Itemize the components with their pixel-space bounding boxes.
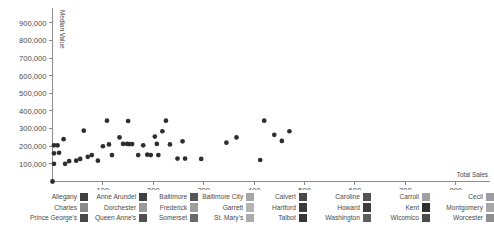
- legend-column: CecilMontgomeryWorcester: [434, 192, 494, 223]
- legend-item[interactable]: Charles: [28, 203, 88, 213]
- legend-color-swatch: [246, 214, 254, 223]
- data-point: [89, 153, 94, 158]
- data-point: [57, 150, 62, 155]
- legend-item[interactable]: Washington: [311, 213, 371, 223]
- data-point: [101, 144, 106, 149]
- legend-color-swatch: [422, 193, 430, 202]
- plot-area: 100,000200,000300,000400,000500,000600,0…: [0, 0, 494, 190]
- data-point: [126, 119, 131, 124]
- data-point: [52, 151, 57, 156]
- data-point: [81, 128, 86, 133]
- legend-item[interactable]: St. Mary's: [202, 213, 254, 223]
- legend-item[interactable]: Anne Arundel: [92, 192, 147, 202]
- y-tick-label: 200,000: [19, 142, 46, 151]
- data-point: [258, 158, 263, 163]
- x-tick-label: 600: [349, 186, 362, 190]
- x-tick-label: 800: [449, 186, 462, 190]
- legend-item-label: Worcester: [453, 213, 483, 223]
- legend-item-label: Charles: [54, 203, 77, 213]
- legend-item-label: Cecil: [468, 192, 483, 202]
- data-point: [61, 137, 66, 142]
- legend-item-label: Allegany: [52, 192, 77, 202]
- legend-item[interactable]: Wicomico: [375, 213, 430, 223]
- legend-color-swatch: [190, 203, 198, 212]
- legend-item-label: Baltimore: [159, 192, 187, 202]
- scatter-chart: 100,000200,000300,000400,000500,000600,0…: [0, 0, 494, 238]
- x-tick-label: 700: [399, 186, 412, 190]
- x-tick-label: 300: [197, 186, 210, 190]
- legend-item-label: Hartford: [272, 203, 296, 213]
- x-tick-label: 500: [298, 186, 311, 190]
- legend-item[interactable]: Howard: [311, 203, 371, 213]
- legend-color-swatch: [299, 203, 307, 212]
- y-axis-title: Median Value: [59, 10, 66, 49]
- legend-item-label: Caroline: [335, 192, 360, 202]
- data-point: [152, 134, 157, 139]
- legend-item-label: Kent: [405, 203, 419, 213]
- legend-color-swatch: [246, 203, 254, 212]
- data-point: [224, 140, 229, 145]
- data-point: [136, 153, 141, 158]
- data-point: [107, 142, 112, 147]
- legend-column: CarolineHowardWashington: [311, 192, 371, 223]
- legend-item[interactable]: Worcester: [434, 213, 494, 223]
- legend-item-label: Montgomery: [446, 203, 483, 213]
- y-tick-label: 600,000: [19, 72, 46, 81]
- legend-item-label: Baltimore City: [202, 192, 243, 202]
- x-tick-label: 200: [147, 186, 160, 190]
- data-point: [168, 142, 173, 147]
- legend-item[interactable]: Calvert: [258, 192, 307, 202]
- legend-color-swatch: [363, 193, 371, 202]
- legend-item[interactable]: Talbot: [258, 213, 307, 223]
- legend-color-swatch: [486, 203, 494, 212]
- data-point: [141, 143, 146, 148]
- legend-color-swatch: [139, 193, 147, 202]
- legend-item[interactable]: Prince George's: [28, 213, 88, 223]
- legend-color-swatch: [363, 203, 371, 212]
- data-point: [180, 139, 185, 144]
- legend-item[interactable]: Caroline: [311, 192, 371, 202]
- legend-item[interactable]: Cecil: [434, 192, 494, 202]
- data-point: [78, 157, 83, 162]
- x-tick-label: 100: [97, 186, 110, 190]
- x-tick-label: 400: [248, 186, 261, 190]
- data-point: [148, 153, 153, 158]
- data-point: [156, 153, 161, 158]
- legend-item[interactable]: Somerset: [151, 213, 198, 223]
- legend-item[interactable]: Frederick: [151, 203, 198, 213]
- legend-color-swatch: [139, 203, 147, 212]
- legend-item[interactable]: Queen Anne's: [92, 213, 147, 223]
- legend-item-label: Somerset: [159, 213, 187, 223]
- x-axis-title: Total Sales: [457, 171, 488, 178]
- legend-item[interactable]: Montgomery: [434, 203, 494, 213]
- data-point: [164, 118, 169, 123]
- legend-item[interactable]: Carroll: [375, 192, 430, 202]
- origin-marker: [50, 179, 55, 184]
- data-point: [117, 135, 122, 140]
- legend-item-label: Talbot: [278, 213, 296, 223]
- legend-item-label: Howard: [337, 203, 360, 213]
- data-point: [110, 153, 115, 158]
- data-point: [199, 157, 204, 162]
- legend-column: Anne ArundelDorchesterQueen Anne's: [92, 192, 147, 223]
- legend-color-swatch: [80, 214, 88, 223]
- legend-color-swatch: [422, 203, 430, 212]
- legend-item[interactable]: Garrett: [202, 203, 254, 213]
- legend-color-swatch: [139, 214, 147, 223]
- legend-item[interactable]: Dorchester: [92, 203, 147, 213]
- legend-item[interactable]: Kent: [375, 203, 430, 213]
- legend-color-swatch: [486, 214, 494, 223]
- legend-item-label: Carroll: [400, 192, 419, 202]
- legend-item[interactable]: Baltimore City: [202, 192, 254, 202]
- legend-item[interactable]: Allegany: [28, 192, 88, 202]
- data-point: [55, 143, 60, 148]
- data-point: [130, 142, 135, 147]
- legend-color-swatch: [190, 193, 198, 202]
- data-point: [67, 159, 72, 164]
- data-point: [121, 142, 126, 147]
- legend-item[interactable]: Hartford: [258, 203, 307, 213]
- legend-item[interactable]: Baltimore: [151, 192, 198, 202]
- legend-column: CarrollKentWicomico: [375, 192, 430, 223]
- y-tick-label: 100,000: [19, 160, 46, 169]
- legend-column: BaltimoreFrederickSomerset: [151, 192, 198, 223]
